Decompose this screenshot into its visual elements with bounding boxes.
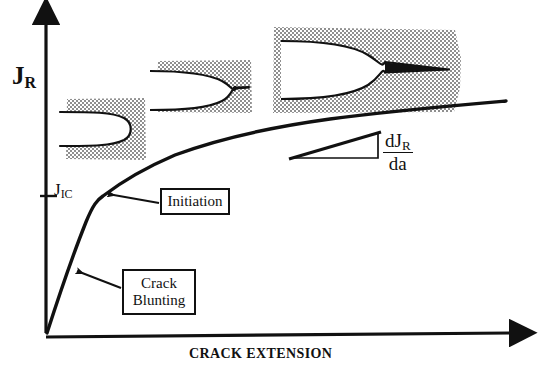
crack-illustration-1	[60, 98, 146, 160]
initiation-leader	[108, 194, 159, 203]
x-axis-label: CRACK EXTENSION	[189, 347, 332, 361]
y-axis-label-subscript: R	[25, 74, 37, 91]
crack-illustration-3	[273, 27, 461, 113]
y-axis-label: JR	[12, 63, 36, 88]
blunting-label-line1: Crack	[141, 275, 177, 292]
initiation-callout-box: Initiation	[160, 188, 230, 215]
blunting-label-line2: Blunting	[133, 292, 186, 309]
slope-numerator: dJR	[383, 131, 413, 153]
crack-illustration-2	[150, 60, 252, 113]
figure-root: JR JIC CRACK EXTENSION Initiation Crack …	[0, 0, 539, 376]
slope-numerator-text: dJ	[385, 130, 402, 151]
jr-curve-diagram	[0, 0, 539, 376]
x-axis	[46, 333, 512, 337]
y-axis-label-text: J	[12, 62, 25, 89]
slope-fraction-label: dJR da	[383, 131, 413, 174]
blunting-leader	[77, 271, 121, 288]
y-tick-label-jic: JIC	[54, 181, 73, 198]
initiation-label: Initiation	[168, 193, 223, 210]
jic-subscript: IC	[61, 187, 73, 201]
jic-main: J	[54, 180, 61, 199]
slope-denominator: da	[383, 153, 413, 174]
slope-numerator-subscript: R	[402, 138, 411, 153]
crack-blunting-callout-box: Crack Blunting	[122, 269, 196, 315]
slope-triangle	[289, 132, 381, 159]
